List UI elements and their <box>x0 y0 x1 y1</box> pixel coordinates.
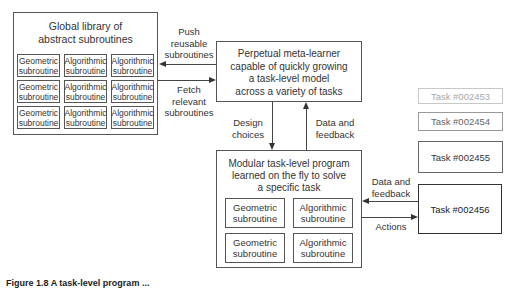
library-cell-algorithmic: Algorithmicsubroutine <box>64 80 107 103</box>
push-label: Pushreusablesubroutines <box>160 26 218 61</box>
global-library-box: Global library of abstract subroutines G… <box>13 12 158 135</box>
actions-arrowhead-icon <box>411 214 418 220</box>
modular-program-box: Modular task-level program learned on th… <box>216 150 362 268</box>
push-arrow-line <box>165 64 216 65</box>
design-arrow-line <box>272 102 273 144</box>
program-cell-algorithmic: Algorithmicsubroutine <box>293 233 353 263</box>
library-cell-geometric: Geometricsubroutine <box>17 80 60 103</box>
actions-label: Actions <box>366 221 416 233</box>
feedback-up-arrowhead-icon <box>303 102 309 109</box>
task-box-002453: Task #002453 <box>418 88 503 104</box>
task-box-002456: Task #002456 <box>418 184 502 234</box>
fetch-arrowhead-icon <box>209 77 216 83</box>
design-arrowhead-icon <box>269 143 275 150</box>
meta-learner-box: Perpetual meta-learner capable of quickl… <box>216 41 362 102</box>
program-cell-geometric: Geometricsubroutine <box>225 198 285 228</box>
library-cell-algorithmic: Algorithmicsubroutine <box>111 106 154 129</box>
library-cell-algorithmic: Algorithmicsubroutine <box>64 54 107 77</box>
task-feedback-arrow-line <box>368 201 418 202</box>
push-arrowhead-icon <box>159 61 166 67</box>
task-feedback-arrowhead-icon <box>362 198 369 204</box>
feedback-up-label: Data andfeedback <box>312 117 358 140</box>
task-box-002455: Task #002455 <box>418 141 503 173</box>
program-cell-algorithmic: Algorithmicsubroutine <box>293 198 353 228</box>
design-choices-label: Designchoices <box>226 117 270 140</box>
task-feedback-label: Data andfeedback <box>368 176 414 199</box>
library-cell-algorithmic: Algorithmicsubroutine <box>111 54 154 77</box>
fetch-arrow-line <box>158 80 210 81</box>
feedback-up-arrow-line <box>306 109 307 150</box>
library-cell-geometric: Geometricsubroutine <box>17 106 60 129</box>
library-cell-geometric: Geometricsubroutine <box>17 54 60 77</box>
meta-learner-text: Perpetual meta-learner capable of quickl… <box>217 48 361 98</box>
fetch-label: Fetchrelevantsubroutines <box>160 84 218 119</box>
library-cell-algorithmic: Algorithmicsubroutine <box>111 80 154 103</box>
figure-caption: Figure 1.8 A task-level program ... <box>6 278 149 288</box>
program-cell-geometric: Geometricsubroutine <box>225 233 285 263</box>
library-title: Global library of abstract subroutines <box>14 20 157 45</box>
library-cell-algorithmic: Algorithmicsubroutine <box>64 106 107 129</box>
modular-program-title: Modular task-level program learned on th… <box>217 158 361 194</box>
actions-arrow-line <box>362 217 412 218</box>
task-box-002454: Task #002454 <box>418 112 503 131</box>
